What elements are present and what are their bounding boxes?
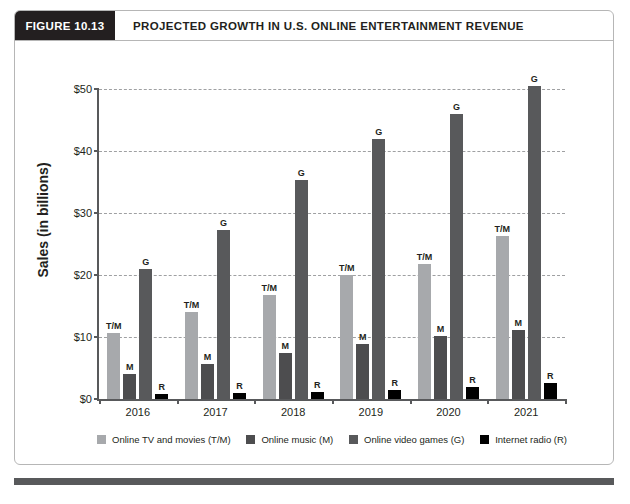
legend-label: Online music (M) — [261, 434, 333, 445]
bar: M — [434, 336, 447, 399]
legend-item: Online video games (G) — [349, 434, 464, 445]
bar-value-label: R — [236, 381, 243, 391]
bar-value-label: G — [531, 74, 538, 84]
bar: T/M — [107, 333, 120, 399]
bar: M — [512, 330, 525, 399]
bar-value-label: G — [375, 127, 382, 137]
x-axis-tick-mark — [487, 399, 489, 404]
legend-swatch — [97, 435, 106, 444]
legend-swatch — [246, 435, 255, 444]
bar-value-label: M — [437, 324, 445, 334]
legend-item: Online TV and movies (T/M) — [97, 434, 231, 445]
x-axis-tick-label: 2017 — [203, 406, 227, 418]
x-axis-tick-mark — [99, 399, 101, 404]
bar: G — [450, 114, 463, 399]
plot-area: $0$10$20$30$40$50T/MMGR2016T/MMGR2017T/M… — [97, 89, 565, 401]
bar-value-label: R — [392, 378, 399, 388]
bar-group: T/MMGR2017 — [177, 89, 255, 399]
x-axis-tick-label: 2021 — [514, 406, 538, 418]
legend-label: Online video games (G) — [364, 434, 464, 445]
bar-value-label: T/M — [339, 263, 355, 273]
figure-header: FIGURE 10.13 PROJECTED GROWTH IN U.S. ON… — [15, 11, 613, 41]
bar-group: T/MMGR2021 — [487, 89, 565, 399]
y-axis-tick-label: $0 — [80, 393, 92, 405]
bar-value-label: G — [453, 102, 460, 112]
bar: M — [356, 344, 369, 399]
bar: M — [279, 353, 292, 400]
y-axis-tick-label: $20 — [74, 269, 92, 281]
bar: R — [544, 383, 557, 399]
bar-group: T/MMGR2019 — [332, 89, 410, 399]
x-axis-tick-label: 2018 — [281, 406, 305, 418]
bar-value-label: M — [126, 362, 134, 372]
bar-value-label: M — [359, 332, 367, 342]
legend-swatch — [480, 435, 489, 444]
bar: T/M — [185, 312, 198, 399]
bar: M — [201, 364, 214, 399]
x-axis-tick-label: 2019 — [359, 406, 383, 418]
bar: R — [311, 392, 324, 399]
bar-value-label: R — [314, 380, 321, 390]
bar: M — [123, 374, 136, 399]
chart-area: Sales (in billions) $0$10$20$30$40$50T/M… — [15, 42, 613, 465]
bottom-rule — [14, 478, 614, 485]
y-axis-tick-label: $10 — [74, 331, 92, 343]
legend-label: Online TV and movies (T/M) — [112, 434, 231, 445]
x-axis-tick-label: 2020 — [436, 406, 460, 418]
bar: R — [388, 390, 401, 399]
bar-value-label: R — [469, 375, 476, 385]
bar: G — [372, 139, 385, 399]
bar: T/M — [340, 275, 353, 399]
bar-value-label: M — [204, 352, 212, 362]
x-axis-tick-mark — [565, 399, 567, 404]
legend-item: Online music (M) — [246, 434, 333, 445]
x-axis-tick-mark — [410, 399, 412, 404]
bar-value-label: G — [142, 257, 149, 267]
bar: G — [528, 86, 541, 399]
bar-value-label: M — [514, 318, 522, 328]
x-axis-tick-mark — [332, 399, 334, 404]
bar-value-label: G — [220, 218, 227, 228]
figure-title: PROJECTED GROWTH IN U.S. ONLINE ENTERTAI… — [115, 11, 613, 40]
bar-group: T/MMGR2020 — [410, 89, 488, 399]
bar-value-label: T/M — [184, 300, 200, 310]
bar-value-label: T/M — [417, 252, 433, 262]
y-axis-label: Sales (in billions) — [35, 140, 51, 300]
bar-value-label: T/M — [494, 224, 510, 234]
bar-value-label: G — [298, 168, 305, 178]
figure-panel: FIGURE 10.13 PROJECTED GROWTH IN U.S. ON… — [14, 10, 614, 465]
chart-legend: Online TV and movies (T/M)Online music (… — [97, 434, 567, 445]
x-axis-tick-mark — [177, 399, 179, 404]
y-axis-tick-label: $50 — [74, 83, 92, 95]
bar: G — [139, 269, 152, 399]
bar-value-label: R — [547, 371, 554, 381]
bar-value-label: M — [281, 341, 289, 351]
bar: G — [295, 180, 308, 399]
bar-value-label: T/M — [261, 283, 277, 293]
bar: T/M — [496, 236, 509, 399]
y-axis-tick-label: $30 — [74, 207, 92, 219]
bar-group: T/MMGR2018 — [254, 89, 332, 399]
bar-group: T/MMGR2016 — [99, 89, 177, 399]
x-axis-tick-label: 2016 — [126, 406, 150, 418]
legend-item: Internet radio (R) — [480, 434, 567, 445]
figure-number: FIGURE 10.13 — [15, 11, 115, 40]
bar: T/M — [418, 264, 431, 399]
x-axis-tick-mark — [254, 399, 256, 404]
bar-value-label: T/M — [106, 321, 122, 331]
bar-value-label: R — [159, 382, 166, 392]
y-axis-tick-label: $40 — [74, 145, 92, 157]
bar: R — [155, 394, 168, 399]
bar: R — [466, 387, 479, 399]
legend-swatch — [349, 435, 358, 444]
bar: T/M — [263, 295, 276, 399]
bar: G — [217, 230, 230, 399]
legend-label: Internet radio (R) — [495, 434, 567, 445]
bar: R — [233, 393, 246, 399]
